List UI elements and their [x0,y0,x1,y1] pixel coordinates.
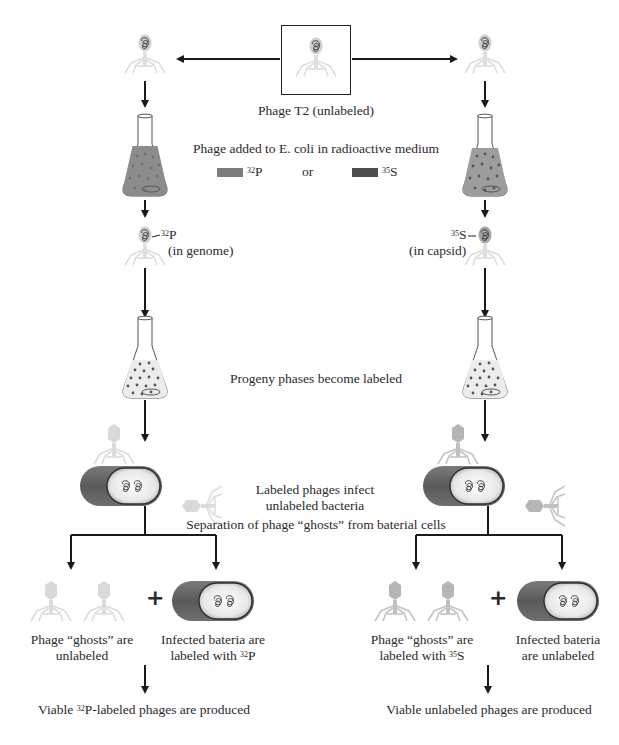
infection-right-icon [423,424,565,526]
label-left-isotope: 32P [161,227,177,243]
split-right-connector [416,506,562,568]
swatch-s35 [352,168,378,177]
swatch-p32 [217,168,243,177]
split-left-connector [71,506,216,568]
ghosts-left-icon [31,581,124,621]
label-left-ghosts-1: Phage “ghosts” are [31,632,134,648]
legend-s35: 35S [352,164,398,180]
label-right-ghosts-2: labeled with 35S [379,648,464,664]
label-right-bacteria-2: are unlabeled [522,648,594,664]
infection-left-icon [80,424,222,526]
label-right-isotope: 35S [451,227,467,243]
label-step-medium: Phage added to E. coli in radioactive me… [193,141,439,157]
legend-p32: 32P [217,164,263,180]
label-right-ghosts-1: Phage “ghosts” are [371,632,474,648]
plus-left: + [146,590,164,606]
label-step-infect-2: unlabeled bacteria [266,498,365,514]
label-left-location: (in genome) [168,243,234,259]
legend-or: or [302,164,313,180]
phage-top-right-icon [465,35,505,74]
label-step-separation: Separation of phage “ghosts” from bateri… [186,517,445,533]
flask-progeny-right-icon [463,316,507,398]
flask-progeny-left-icon [123,316,167,398]
ghosts-right-icon [375,581,468,621]
label-left-result: Viable 32P-labeled phages are produced [38,702,250,718]
flask-p32-medium-icon [123,114,167,196]
phage-s35-labeled-icon [465,227,505,266]
label-step-progeny: Progeny phases become labeled [230,371,402,387]
phage-top-left-icon [125,35,165,74]
label-step-infect-1: Labeled phages infect [256,482,374,498]
label-phage-t2: Phage T2 (unlabeled) [258,103,374,119]
plus-right: + [489,590,507,606]
bacterium-right-icon [517,581,599,621]
label-right-location: (in capsid) [409,243,466,259]
flask-s35-medium-icon [463,114,507,196]
phage-p32-labeled-icon [125,227,165,266]
phage-t2-box [281,25,351,95]
label-right-result: Viable unlabeled phages are produced [386,702,591,718]
bacterium-left-icon [172,581,254,621]
label-right-bacteria-1: Infected bateria [516,632,600,648]
label-left-bacteria-1: Infected bateria are [161,632,265,648]
label-left-bacteria-2: labeled with 32P [170,648,255,664]
label-left-ghosts-2: unlabeled [56,648,108,664]
